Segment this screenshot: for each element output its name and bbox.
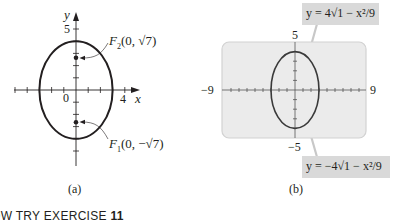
window-xmax-label: 9 — [370, 83, 376, 98]
upper-equation-label: y = 4√1 − x²/9 — [306, 6, 375, 21]
f2-leader-line — [82, 43, 108, 58]
y-axis-label: y — [64, 7, 70, 23]
figure-b-caption: (b) — [289, 182, 303, 197]
y-axis — [73, 12, 79, 166]
figure-b — [222, 3, 390, 178]
lower-equation-label: y = −4√1 − x²/9 — [306, 159, 382, 174]
focus-f1-point — [74, 120, 79, 125]
y-tick-label-5: 5 — [64, 22, 70, 37]
focus-f1-coords: (0, −√7) — [121, 136, 164, 151]
focus-f2-point — [74, 55, 79, 60]
f2-leader-arrow-icon — [80, 56, 86, 60]
focus-f1-letter: F — [109, 136, 117, 151]
now-try-exercise-note: OW TRY EXERCISE 11 — [0, 209, 124, 222]
window-ymin-label: −5 — [288, 140, 301, 155]
focus-f2-label: F2(0, √7) — [109, 33, 156, 51]
exercise-number: 11 — [111, 209, 124, 222]
focus-f2-coords: (0, √7) — [121, 33, 156, 48]
x-tick-label-4: 4 — [120, 92, 126, 107]
focus-f1-label: F1(0, −√7) — [109, 136, 164, 154]
x-axis-label: x — [135, 91, 141, 107]
y-axis-arrow-icon — [73, 12, 79, 21]
figure-a-caption: (a) — [68, 182, 81, 197]
f1-leader-arrow-icon — [80, 120, 86, 124]
now-try-prefix: OW TRY EXERCISE — [0, 209, 111, 222]
origin-label: 0 — [63, 91, 69, 106]
window-xmin-label: −9 — [201, 83, 214, 98]
focus-f2-letter: F — [109, 33, 117, 48]
window-ymax-label: 5 — [292, 28, 298, 43]
